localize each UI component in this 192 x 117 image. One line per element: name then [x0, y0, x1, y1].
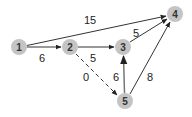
edge-weight-2-3: 5 [90, 52, 96, 64]
edge-weight-2-5: 0 [83, 71, 89, 83]
edge-5-3 [124, 56, 125, 93]
node-4-label: 4 [172, 9, 178, 20]
node-1-label: 1 [16, 42, 22, 53]
node-5: 5 [117, 93, 133, 109]
node-1: 1 [11, 39, 27, 55]
edge-1-4 [27, 16, 166, 46]
edge-weight-5-3: 6 [113, 71, 119, 83]
edge-weight-3-4: 5 [133, 27, 139, 39]
edge-weight-1-4: 15 [84, 14, 96, 26]
edge-weight-5-4: 8 [147, 71, 153, 83]
node-3-label: 3 [120, 42, 126, 53]
edge-weight-1-2: 6 [39, 52, 45, 64]
node-5-label: 5 [122, 96, 128, 107]
node-3: 3 [115, 39, 131, 55]
node-2-label: 2 [67, 42, 73, 53]
node-2: 2 [62, 39, 78, 55]
graph-diagram: 15 6 5 5 0 6 8 1 2 3 4 5 [0, 0, 192, 117]
node-4: 4 [167, 6, 183, 22]
